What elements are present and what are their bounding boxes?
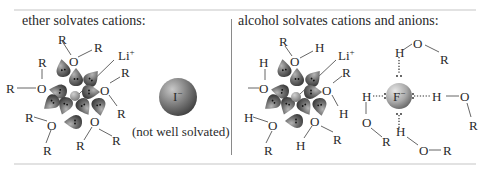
svg-text:H: H: [339, 106, 348, 121]
svg-text:R: R: [443, 143, 452, 158]
svg-text:O: O: [90, 114, 99, 129]
svg-text:R: R: [58, 32, 67, 47]
svg-text:H: H: [395, 45, 404, 60]
svg-text:R: R: [279, 34, 288, 49]
svg-text:O: O: [413, 36, 422, 51]
svg-text:O: O: [290, 54, 299, 69]
svg-text:H: H: [259, 55, 268, 70]
svg-text:O: O: [362, 115, 371, 130]
svg-text:R: R: [342, 65, 351, 80]
svg-text:R: R: [382, 134, 391, 149]
svg-text:R: R: [121, 65, 130, 80]
svg-text:H: H: [296, 138, 305, 153]
svg-text:R: R: [264, 143, 273, 158]
svg-text:H: H: [244, 110, 253, 125]
svg-text:O: O: [268, 118, 277, 133]
svg-text:O: O: [69, 54, 78, 69]
svg-text:O: O: [460, 89, 469, 104]
ether-cation-label: Li+: [118, 47, 135, 63]
svg-text:H: H: [432, 89, 441, 104]
svg-text:O: O: [322, 83, 331, 98]
lithium-ion: [70, 91, 80, 101]
svg-text:R: R: [469, 118, 478, 133]
svg-text:R: R: [43, 143, 52, 158]
svg-text:O: O: [419, 143, 428, 158]
svg-text:O: O: [47, 118, 56, 133]
svg-text:R: R: [76, 138, 85, 153]
svg-text:H: H: [396, 124, 405, 139]
svg-text:O: O: [37, 81, 46, 96]
fluoride-hbond-network: F− H O R H H O R O R H O R: [362, 36, 478, 158]
svg-text:O: O: [310, 114, 319, 129]
iodide-ion: I−: [159, 78, 197, 116]
alcohol-cation-label: Li+: [338, 47, 355, 63]
svg-text:R: R: [6, 81, 15, 96]
lithium-ion-alcohol: [291, 92, 301, 102]
svg-text:R: R: [38, 55, 47, 70]
svg-text:H: H: [315, 40, 324, 55]
svg-text:R: R: [117, 106, 126, 121]
svg-text:O: O: [100, 83, 109, 98]
svg-text:R: R: [94, 40, 103, 55]
solvation-diagram: R R O R R O R O R R O O R R R Li+ I−: [0, 0, 490, 171]
svg-text:H: H: [362, 89, 371, 104]
iodide-caption: (not well solvated): [132, 124, 229, 140]
svg-text:R: R: [440, 52, 449, 67]
svg-text:R: R: [25, 110, 34, 125]
svg-text:R: R: [333, 132, 342, 147]
svg-text:R: R: [112, 133, 121, 148]
svg-text:O: O: [259, 81, 268, 96]
